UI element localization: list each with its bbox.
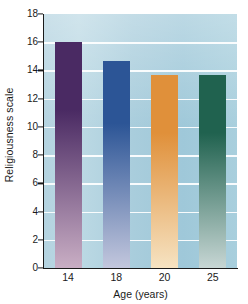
bar bbox=[151, 75, 178, 268]
y-axis-tick-mark bbox=[38, 267, 43, 268]
y-axis-tick-label: 18 bbox=[27, 9, 38, 19]
x-axis-tick-label: 25 bbox=[207, 272, 219, 283]
x-axis-line bbox=[43, 268, 238, 269]
y-axis-tick-mark bbox=[38, 126, 43, 127]
x-axis-title: Age (years) bbox=[44, 288, 237, 300]
y-axis-tick-labels: 024681012141618 bbox=[16, 14, 38, 268]
y-axis-tick-label: 10 bbox=[27, 122, 38, 132]
bar-chart: Religiousness scale 024681012141618 1418… bbox=[0, 0, 248, 304]
y-axis-tick-mark bbox=[38, 98, 43, 99]
y-axis-tick-mark bbox=[38, 70, 43, 71]
y-axis-tick-mark bbox=[38, 42, 43, 43]
y-axis-tick-label: 14 bbox=[27, 65, 38, 75]
y-axis-tick-mark bbox=[38, 183, 43, 184]
y-axis-tick-mark bbox=[38, 211, 43, 212]
x-axis-tick-label: 20 bbox=[159, 272, 171, 283]
bar bbox=[103, 61, 130, 268]
x-axis-tick-label: 14 bbox=[62, 272, 74, 283]
y-axis-tick-label: 16 bbox=[27, 37, 38, 47]
x-axis-tick-labels: 14182025 bbox=[44, 272, 237, 288]
y-axis-tick-label: 12 bbox=[27, 94, 38, 104]
y-axis-tick-mark bbox=[38, 239, 43, 240]
bar bbox=[55, 42, 82, 268]
y-axis-tick-mark bbox=[38, 155, 43, 156]
y-axis-tick-mark bbox=[38, 13, 43, 14]
bar bbox=[199, 75, 226, 268]
plot-area bbox=[44, 14, 237, 268]
x-axis-tick-label: 18 bbox=[111, 272, 123, 283]
y-axis-title-text: Religiousness scale bbox=[3, 88, 15, 183]
